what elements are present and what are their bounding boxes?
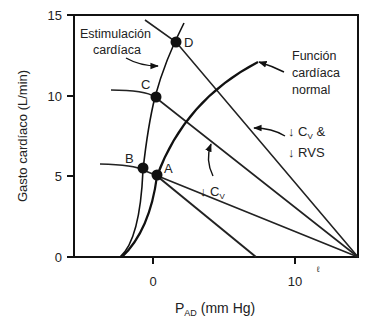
y-tick-0: 0 <box>55 250 62 265</box>
label-d: D <box>184 35 193 50</box>
y-tick-5: 5 <box>55 169 62 184</box>
x-tick-0: 0 <box>149 274 156 289</box>
y-axis-label: Gasto cardíaco (L/min) <box>15 70 30 202</box>
y-tick-10: 10 <box>48 89 62 104</box>
annotation-normal-3: normal <box>292 83 330 97</box>
venous-return-c <box>111 90 358 257</box>
stray-mark: ℓ <box>316 265 320 274</box>
label-b: B <box>125 151 134 166</box>
annotation-cv: ↓ CV <box>200 184 226 201</box>
label-a: A <box>164 161 173 176</box>
label-c: C <box>141 77 150 92</box>
arrow-normal <box>259 62 284 72</box>
annotation-stim-2: cardíaca <box>93 43 141 57</box>
annotation-cv-rvs-1: ↓ CV & <box>288 124 325 141</box>
arrow-cv-rvs <box>254 128 285 136</box>
point-c <box>151 92 162 103</box>
x-axis-ticks <box>153 257 295 264</box>
annotation-normal-1: Función <box>292 49 337 63</box>
y-axis-ticks <box>67 15 74 257</box>
x-tick-10: 10 <box>288 274 302 289</box>
point-a <box>152 170 163 181</box>
annotation-normal-2: cardíaca <box>292 66 340 80</box>
y-tick-15: 15 <box>48 8 62 23</box>
arrow-cv <box>208 144 213 176</box>
annotation-cv-rvs-2: ↓ RVS <box>288 145 325 160</box>
x-axis-label: PAD (mm Hg) <box>175 300 255 318</box>
annotation-stim-1: Estimulación <box>80 27 151 41</box>
point-d <box>171 37 182 48</box>
chart: 15 10 5 0 0 10 Gasto cardíaco (L/min) PA… <box>0 0 370 328</box>
point-b <box>138 163 149 174</box>
arrow-stim <box>126 58 158 66</box>
